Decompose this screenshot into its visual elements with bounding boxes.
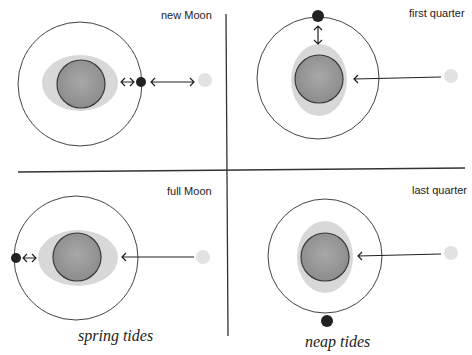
moon <box>11 253 21 263</box>
label-new-moon: new Moon <box>161 9 212 21</box>
tides-diagram <box>0 0 472 355</box>
earth <box>53 233 101 281</box>
moon <box>312 10 324 22</box>
moon <box>136 77 146 87</box>
sun <box>444 246 458 260</box>
double-arrow-small <box>23 254 36 262</box>
sunlight-arrow <box>358 252 441 260</box>
label-first-quarter: first quarter <box>409 7 465 19</box>
caption-spring-tides: spring tides <box>78 327 153 345</box>
horizontal-divider <box>18 168 465 172</box>
earth <box>57 60 105 108</box>
panel-full-moon <box>11 196 210 320</box>
panel-new-moon <box>18 22 212 146</box>
sunlight-arrow <box>354 75 441 83</box>
moon <box>321 315 333 327</box>
panel-first-quarter <box>257 10 458 139</box>
sunlight-arrow <box>122 253 194 261</box>
panel-last-quarter <box>268 199 458 327</box>
double-arrow-large <box>151 78 194 86</box>
sun <box>198 73 212 87</box>
earth <box>301 233 349 281</box>
earth <box>295 55 343 103</box>
sun <box>196 250 210 264</box>
caption-neap-tides: neap tides <box>305 333 370 351</box>
vertical-divider <box>226 14 228 336</box>
label-last-quarter: last quarter <box>412 184 467 196</box>
sun <box>444 69 458 83</box>
double-arrow-small <box>121 78 134 86</box>
label-full-moon: full Moon <box>167 185 212 197</box>
double-arrow-vertical <box>314 26 322 44</box>
